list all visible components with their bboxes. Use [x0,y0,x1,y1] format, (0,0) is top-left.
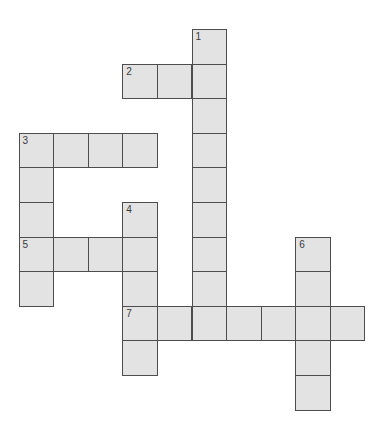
crossword-cell[interactable] [122,271,158,307]
clue-number: 3 [23,136,29,146]
clue-number: 4 [126,205,132,215]
crossword-cell[interactable] [295,306,331,342]
crossword-cell[interactable] [88,133,124,169]
crossword-cell[interactable]: 5 [19,237,55,273]
crossword-cell[interactable] [261,306,297,342]
crossword-cell[interactable] [122,133,158,169]
crossword-cell[interactable] [19,202,55,238]
crossword-grid: 1235476 [0,0,383,438]
crossword-cell[interactable] [192,202,228,238]
crossword-cell[interactable] [19,271,55,307]
crossword-cell[interactable]: 6 [295,237,331,273]
crossword-cell[interactable] [192,98,228,134]
crossword-cell[interactable] [295,271,331,307]
clue-number: 7 [126,309,132,319]
crossword-cell[interactable] [295,375,331,411]
crossword-cell[interactable] [330,306,366,342]
crossword-cell[interactable] [157,306,193,342]
crossword-cell[interactable] [192,133,228,169]
crossword-cell[interactable] [192,271,228,307]
clue-number: 6 [299,240,305,250]
crossword-cell[interactable]: 4 [122,202,158,238]
crossword-cell[interactable] [192,306,228,342]
crossword-cell[interactable] [53,237,89,273]
crossword-cell[interactable] [157,64,193,100]
clue-number: 2 [126,67,132,77]
clue-number: 5 [23,240,29,250]
crossword-cell[interactable] [53,133,89,169]
crossword-cell[interactable]: 1 [192,29,228,65]
crossword-cell[interactable] [192,64,228,100]
crossword-cell[interactable] [122,237,158,273]
crossword-cell[interactable] [19,167,55,203]
crossword-cell[interactable] [192,167,228,203]
crossword-cell[interactable]: 3 [19,133,55,169]
crossword-cell[interactable]: 2 [122,64,158,100]
crossword-cell[interactable] [122,340,158,376]
crossword-cell[interactable] [192,237,228,273]
crossword-cell[interactable] [295,340,331,376]
clue-number: 1 [196,32,202,42]
crossword-cell[interactable] [88,237,124,273]
crossword-cell[interactable] [226,306,262,342]
crossword-cell[interactable]: 7 [122,306,158,342]
